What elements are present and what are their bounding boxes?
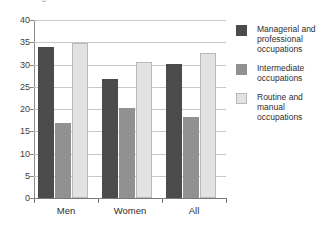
x-tick-label: Women [98,205,162,216]
bar[interactable] [200,53,216,198]
y-tick-label: 15 [4,127,30,136]
legend-swatch-icon [236,93,247,104]
plot-area [34,20,226,198]
y-tick-label: 30 [4,61,30,70]
legend-item[interactable]: Intermediate occupations [236,63,328,83]
y-tick-label: 40 [4,16,30,25]
bar-group [34,20,98,198]
bar-group [98,20,162,198]
x-tick-label: All [162,205,226,216]
bar[interactable] [102,79,118,198]
chart-supertitle-clipped: Percentages [8,0,55,2]
x-tick-mark [226,198,227,203]
legend-swatch-icon [236,64,247,75]
x-tick-mark [98,198,99,203]
legend-label: Intermediate occupations [257,63,328,83]
y-tick-label: 20 [4,105,30,114]
bar-group [162,20,226,198]
bar[interactable] [183,117,199,198]
y-tick-label: 0 [4,194,30,203]
legend-item[interactable]: Routine and manual occupations [236,92,328,122]
bar[interactable] [72,43,88,198]
bar[interactable] [55,123,71,198]
x-tick-mark [162,198,163,203]
bar-chart: Percentages 0510152025303540 MenWomenAll… [0,0,330,227]
bar[interactable] [136,62,152,198]
legend-item[interactable]: Managerial and professional occupations [236,24,328,54]
x-tick-label: Men [34,205,98,216]
y-tick-label: 5 [4,172,30,181]
bar[interactable] [38,47,54,198]
y-tick-label: 10 [4,150,30,159]
y-tick-label: 35 [4,38,30,47]
legend-label: Managerial and professional occupations [257,24,328,54]
bar[interactable] [119,108,135,198]
y-tick-label: 25 [4,83,30,92]
chart-legend: Managerial and professional occupationsI… [236,24,328,131]
bar[interactable] [166,64,182,198]
x-tick-mark [34,198,35,203]
x-axis-line [34,198,226,199]
legend-label: Routine and manual occupations [257,92,328,122]
y-axis-labels: 0510152025303540 [0,20,30,198]
legend-swatch-icon [236,25,247,36]
